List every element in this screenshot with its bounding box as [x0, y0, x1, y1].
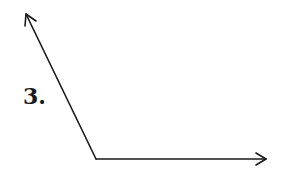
- ray-1: [26, 14, 96, 159]
- angle-figure: [0, 0, 286, 188]
- problem-canvas: 3.: [0, 0, 286, 188]
